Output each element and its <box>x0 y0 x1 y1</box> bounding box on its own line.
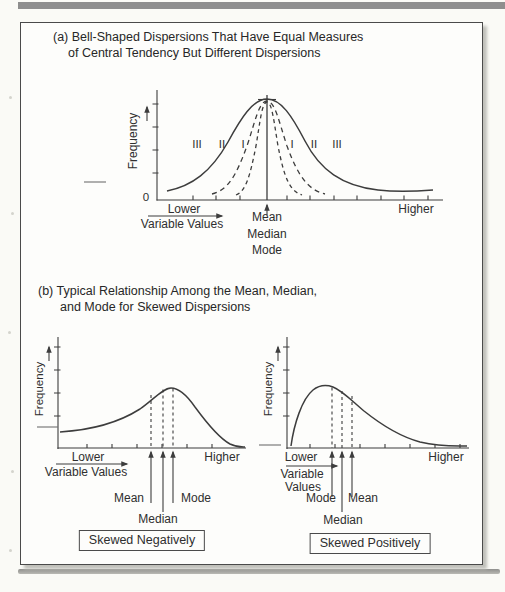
panel-b-left-lower-label: Lower <box>72 451 105 464</box>
panel-b-right-caption-box: Skewed Positively <box>310 533 431 554</box>
figure-page: { "figure": { "panel_a": { "title_line1"… <box>0 0 505 592</box>
panel-b-title-line2: and Mode for Skewed Dispersions <box>60 299 250 315</box>
panel-a-lower-label: Lower <box>168 203 201 216</box>
panel-a-title-line1: (a) Bell-Shaped Dispersions That Have Eq… <box>53 29 363 45</box>
panel-a-curve-label-I-right: I <box>290 138 293 150</box>
panel-a-x-ticks <box>193 196 428 201</box>
panel-a-curve-label-I-left: I <box>241 138 244 150</box>
panel-b-left-mean-label: Mean <box>114 492 144 505</box>
panel-a-curve-label-III-left: III <box>192 138 202 150</box>
panel-b-right-mode-label: Mode <box>306 492 336 505</box>
panel-b-right-curve <box>291 385 467 446</box>
panel-a-y-ticks <box>153 104 159 173</box>
panel-b-right-higher-label: Higher <box>428 451 463 464</box>
panel-b-left-y-axis-label: Frequency <box>33 362 46 416</box>
panel-a-higher-label: Higher <box>398 203 433 216</box>
panel-a-median-label: Median <box>247 226 286 243</box>
panel-b-left-x-ticks <box>87 444 212 448</box>
panel-a-variable-values-label: Variable Values <box>141 218 223 231</box>
panel-a-title-line2: of Central Tendency But Different Disper… <box>68 45 320 61</box>
panel-b-left-variable-values-label: Variable Values <box>45 466 127 479</box>
panel-b-right-y-axis-label: Frequency <box>262 362 275 416</box>
panel-a-curve-label-III-right: III <box>332 138 342 150</box>
panel-a-central-tendency-labels: Mean Median Mode <box>247 209 286 259</box>
panel-b-left-mode-label: Mode <box>181 492 211 505</box>
panel-b-left-curve <box>60 388 245 447</box>
panel-b-right-mean-label: Mean <box>348 492 378 505</box>
panel-a-curve-label-II-left: II <box>219 138 225 150</box>
panel-b-left-higher-label: Higher <box>204 451 239 464</box>
panel-a-origin-label: 0 <box>143 191 149 204</box>
panel-a-mean-label: Mean <box>247 209 286 226</box>
panel-b-left-median-label: Median <box>138 513 177 526</box>
panel-a-mode-label: Mode <box>247 242 286 259</box>
panel-b-right-y-ticks <box>283 347 290 416</box>
panel-a-curve-III <box>167 99 433 191</box>
panel-b-right-median-label: Median <box>323 514 362 527</box>
panel-b-left-caption-box: Skewed Negatively <box>79 530 205 551</box>
panel-b-title-line1: (b) Typical Relationship Among the Mean,… <box>38 283 317 299</box>
panel-a-y-axis-label: Frequency <box>127 113 140 170</box>
panel-a-curve-label-II-right: II <box>311 138 317 150</box>
panel-b-right-lower-label: Lower <box>285 451 318 464</box>
panel-b-left-y-ticks <box>54 347 61 416</box>
